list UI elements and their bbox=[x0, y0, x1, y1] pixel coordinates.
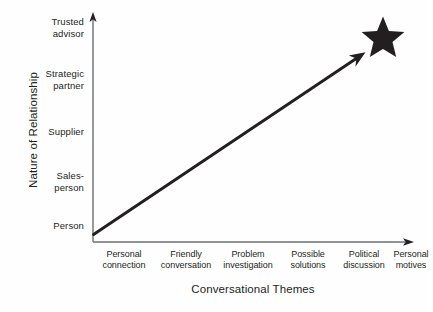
y-axis-title: Nature of Relationship bbox=[27, 45, 39, 215]
xtick-line-1: Friendly bbox=[155, 249, 217, 260]
xtick-line-1: Personal bbox=[93, 249, 155, 260]
ytick-line-1: Trusted bbox=[22, 16, 84, 28]
xtick-problem-investigation: Problem investigation bbox=[217, 249, 279, 271]
ytick-trusted-advisor: Trusted advisor bbox=[22, 16, 84, 39]
ytick-person: Person bbox=[22, 220, 84, 232]
xtick-personal-connection: Personal connection bbox=[93, 249, 155, 271]
ytick-line-2: advisor bbox=[22, 28, 84, 40]
x-axis-title: Conversational Themes bbox=[93, 283, 413, 295]
xtick-line-1: Problem bbox=[217, 249, 279, 260]
xtick-possible-solutions: Possible solutions bbox=[279, 249, 337, 271]
xtick-line-2: solutions bbox=[279, 260, 337, 271]
xtick-personal-motives: Personal motives bbox=[384, 249, 433, 271]
goal-star-icon bbox=[362, 17, 405, 58]
progression-arrow-head bbox=[349, 52, 366, 67]
xtick-friendly-conversation: Friendly conversation bbox=[155, 249, 217, 271]
xtick-line-2: connection bbox=[93, 260, 155, 271]
xtick-line-1: Possible bbox=[279, 249, 337, 260]
xtick-line-1: Personal bbox=[384, 249, 433, 260]
progression-arrow-shaft bbox=[94, 58, 358, 235]
xtick-line-2: conversation bbox=[155, 260, 217, 271]
xtick-line-2: investigation bbox=[217, 260, 279, 271]
xtick-line-2: motives bbox=[384, 260, 433, 271]
ytick-line-1: Person bbox=[22, 220, 84, 232]
